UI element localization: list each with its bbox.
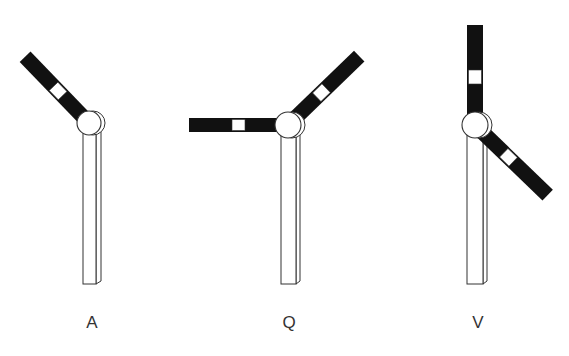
pole [467,130,483,284]
signal-v [462,25,553,284]
arm [467,25,483,125]
semaphore-diagram [0,0,569,356]
arm-band [232,120,245,131]
hub [77,111,101,135]
arm-band [469,70,482,84]
pole-side [296,128,300,284]
pole [83,128,96,284]
arm [189,118,288,132]
pole-side [96,126,101,284]
signal-label-q: Q [274,313,304,333]
signal-label-a: A [77,313,107,333]
hub [462,112,488,138]
signal-label-v: V [463,313,493,333]
signal-q [189,51,364,284]
signal-a [20,52,105,284]
pole [281,130,296,284]
hub [275,112,301,138]
pole-side [483,128,487,284]
